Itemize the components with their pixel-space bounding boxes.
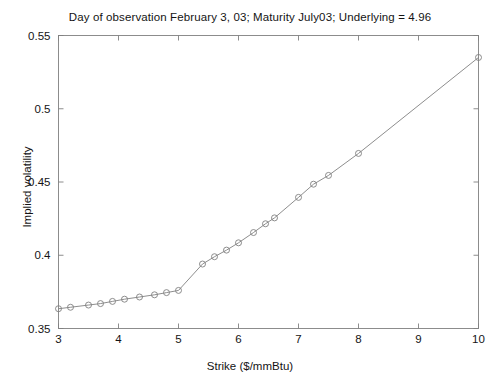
figure-canvas: Day of observation February 3, 03; Matur… bbox=[0, 0, 500, 391]
axes-frame bbox=[59, 36, 479, 329]
axis-tick-marks bbox=[59, 36, 479, 329]
data-series-markers bbox=[56, 54, 482, 311]
data-series-line bbox=[59, 57, 479, 308]
plot-area bbox=[0, 0, 500, 391]
